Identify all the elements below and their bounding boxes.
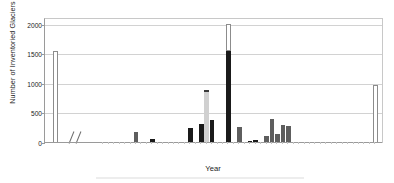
x-minor-tick [146, 142, 147, 144]
x-minor-tick [347, 142, 348, 144]
bar-cap [204, 90, 209, 92]
x-minor-tick [282, 142, 283, 144]
x-minor-tick [342, 142, 343, 144]
gridline [45, 25, 382, 26]
gridline [45, 84, 382, 85]
x-minor-tick [102, 142, 103, 144]
y-tick-label: 0 [38, 140, 42, 147]
x-minor-tick [304, 142, 305, 144]
x-axis-title: Year [44, 164, 382, 173]
x-minor-tick [260, 142, 261, 144]
x-minor-tick [244, 142, 245, 144]
x-minor-tick [168, 142, 169, 144]
x-minor-tick [178, 142, 179, 144]
x-minor-tick [108, 142, 109, 144]
y-tick-label: 1500 [27, 51, 42, 58]
bar [270, 119, 275, 143]
y-tick-mark [42, 84, 45, 85]
x-minor-tick [331, 142, 332, 144]
bar [373, 85, 378, 143]
x-minor-tick [151, 142, 152, 144]
x-minor-tick [271, 142, 272, 144]
x-minor-tick [189, 142, 190, 144]
bar [204, 90, 209, 143]
bar [53, 51, 58, 143]
x-minor-tick [358, 142, 359, 144]
x-minor-tick [130, 142, 131, 144]
x-minor-tick [287, 142, 288, 144]
x-minor-tick [200, 142, 201, 144]
x-minor-tick [119, 142, 120, 144]
y-tick-mark [42, 25, 45, 26]
x-minor-tick [320, 142, 321, 144]
bar [188, 128, 193, 143]
x-minor-tick [309, 142, 310, 144]
y-tick-label: 500 [31, 110, 42, 117]
footer-band [96, 177, 304, 179]
y-tick-label: 2000 [27, 21, 42, 28]
x-minor-tick [374, 142, 375, 144]
x-minor-tick [336, 142, 337, 144]
x-minor-tick [353, 142, 354, 144]
x-minor-tick [195, 142, 196, 144]
y-axis-title: Number of Inventoried Glaciers [8, 0, 17, 123]
x-minor-tick [184, 142, 185, 144]
x-minor-tick [211, 142, 212, 144]
x-minor-tick [206, 142, 207, 144]
x-minor-tick [233, 142, 234, 144]
bar-extension [226, 24, 231, 52]
x-minor-tick [222, 142, 223, 144]
y-tick-label: 1000 [27, 80, 42, 87]
bar [237, 127, 242, 143]
x-minor-tick [298, 142, 299, 144]
x-minor-tick [255, 142, 256, 144]
bar [210, 120, 215, 143]
x-minor-tick [157, 142, 158, 144]
x-minor-tick [238, 142, 239, 144]
bar [281, 125, 286, 143]
x-minor-tick [135, 142, 136, 144]
x-minor-tick [140, 142, 141, 144]
x-minor-tick [276, 142, 277, 144]
x-minor-tick [173, 142, 174, 144]
plot-area: 0500100015002000 [44, 18, 383, 143]
gridline [45, 113, 382, 114]
bar [226, 51, 231, 143]
x-minor-tick [217, 142, 218, 144]
y-tick-mark [42, 143, 45, 144]
x-minor-tick [266, 142, 267, 144]
x-minor-tick [369, 142, 370, 144]
x-minor-tick [162, 142, 163, 144]
y-tick-mark [42, 113, 45, 114]
x-minor-tick [314, 142, 315, 144]
gridline [45, 54, 382, 55]
glacier-inventory-chart: Number of Inventoried Glaciers 050010001… [0, 0, 394, 183]
bar [199, 124, 204, 143]
x-minor-tick [249, 142, 250, 144]
x-minor-tick [363, 142, 364, 144]
bar [286, 126, 291, 143]
x-minor-tick [113, 142, 114, 144]
y-tick-mark [42, 54, 45, 55]
x-minor-tick [293, 142, 294, 144]
x-minor-tick [124, 142, 125, 144]
x-minor-tick [227, 142, 228, 144]
x-minor-tick [325, 142, 326, 144]
